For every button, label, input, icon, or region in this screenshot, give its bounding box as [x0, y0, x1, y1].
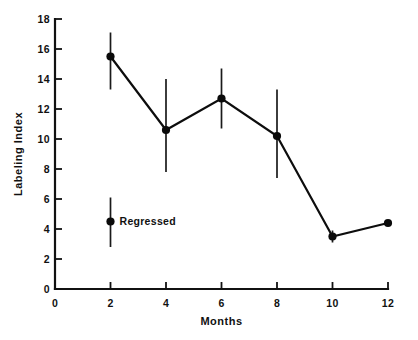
regressed-label: Regressed [120, 215, 176, 227]
data-point-marker [162, 126, 170, 134]
x-tick-label: 12 [382, 297, 394, 309]
x-tick-label: 6 [218, 297, 224, 309]
y-tick-label: 16 [38, 43, 50, 55]
line-chart-plot: 18 16 14 12 10 8 6 4 2 0 0 2 4 6 8 [0, 0, 418, 340]
y-tick-label: 8 [44, 163, 50, 175]
y-tick-label: 0 [44, 283, 50, 295]
error-bars [111, 33, 333, 243]
x-tick-label: 0 [52, 297, 58, 309]
data-point-markers [106, 52, 392, 240]
y-tick-label: 12 [38, 103, 50, 115]
x-tick-label: 4 [163, 297, 169, 309]
y-tick-label: 2 [44, 253, 50, 265]
y-tick-label: 14 [38, 73, 50, 85]
x-tick-label: 2 [107, 297, 113, 309]
y-tick-label: 18 [38, 13, 50, 25]
x-tick-label: 8 [274, 297, 280, 309]
y-axis-title: Labeling Index [12, 112, 24, 196]
data-point-marker [328, 232, 336, 240]
data-point-marker [384, 219, 392, 227]
y-tick-label: 4 [44, 223, 50, 235]
x-tick-label: 10 [326, 297, 338, 309]
data-point-marker [217, 94, 225, 102]
data-point-marker [106, 52, 114, 60]
y-tick-label: 10 [38, 133, 50, 145]
regressed-marker-icon [106, 217, 114, 225]
y-tick-label: 6 [44, 193, 50, 205]
chart-figure: 18 16 14 12 10 8 6 4 2 0 0 2 4 6 8 [0, 0, 418, 340]
y-axis-tick-labels: 18 16 14 12 10 8 6 4 2 0 [38, 13, 50, 295]
data-point-marker [273, 132, 281, 140]
x-axis-title: Months [200, 315, 242, 327]
regressed-annotation: Regressed [106, 198, 176, 248]
x-axis-tick-labels: 0 2 4 6 8 10 12 [52, 297, 394, 309]
series-line-labeling-index [111, 57, 389, 237]
